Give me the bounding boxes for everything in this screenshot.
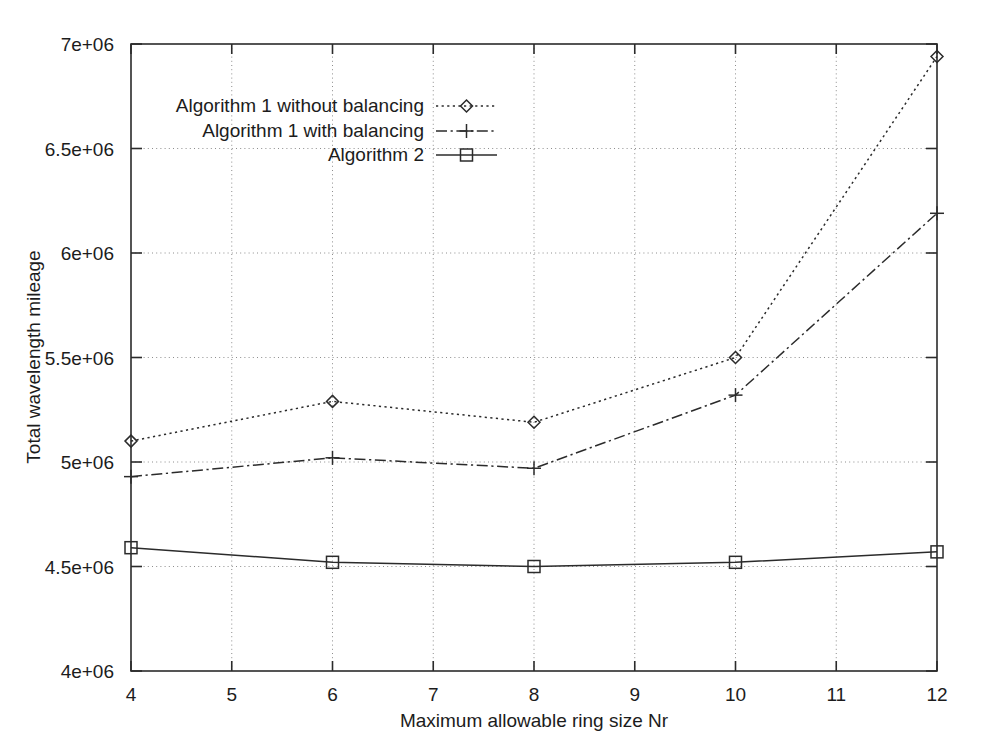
y-tick-label: 5e+06 [61, 452, 114, 473]
y-tick-label: 5.5e+06 [45, 348, 114, 369]
x-tick-label: 8 [529, 684, 540, 705]
line-chart: 4e+064.5e+065e+065.5e+066e+066.5e+067e+0… [0, 0, 981, 751]
x-tick-label: 12 [926, 684, 947, 705]
y-tick-label: 6.5e+06 [45, 139, 114, 160]
y-axis-title: Total wavelength mileage [23, 250, 44, 463]
y-tick-label: 4.5e+06 [45, 557, 114, 578]
chart-background [0, 0, 981, 751]
x-tick-label: 5 [226, 684, 237, 705]
y-tick-label: 4e+06 [61, 661, 114, 682]
legend-label-2: Algorithm 1 with balancing [202, 120, 424, 141]
x-tick-label: 6 [327, 684, 338, 705]
legend-label-3: Algorithm 2 [328, 144, 424, 165]
x-tick-label: 7 [428, 684, 439, 705]
y-tick-label: 7e+06 [61, 34, 114, 55]
x-tick-label: 9 [629, 684, 640, 705]
x-axis-title: Maximum allowable ring size Nr [400, 710, 669, 731]
x-tick-label: 10 [725, 684, 746, 705]
y-tick-label: 6e+06 [61, 243, 114, 264]
x-tick-label: 4 [126, 684, 137, 705]
x-tick-label: 11 [826, 684, 846, 705]
legend-label-1: Algorithm 1 without balancing [176, 95, 424, 116]
chart-figure: 4e+064.5e+065e+065.5e+066e+066.5e+067e+0… [0, 0, 981, 751]
